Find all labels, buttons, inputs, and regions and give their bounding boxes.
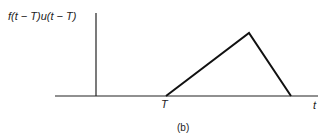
figure-caption: (b) bbox=[177, 122, 189, 133]
shifted-pulse-curve bbox=[166, 33, 291, 96]
diagram-canvas: f(t − T)u(t − T) T t (b) bbox=[0, 0, 330, 139]
shift-tick-label: T bbox=[161, 98, 169, 110]
x-axis-label: t bbox=[313, 99, 317, 111]
y-axis-label: f(t − T)u(t − T) bbox=[8, 10, 77, 22]
